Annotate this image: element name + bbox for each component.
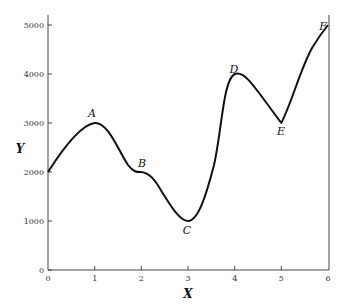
x-tick-label: 3 [185, 274, 190, 283]
x-axis-title: X [182, 287, 193, 301]
point-label-d: D [229, 63, 239, 76]
y-tick-label: 5000 [24, 21, 44, 30]
y-tick-label: 3000 [24, 119, 44, 128]
y-tick-label: 4000 [24, 70, 44, 79]
x-ticks: 0 1 2 3 4 5 6 [45, 266, 330, 283]
point-label-a: A [87, 107, 96, 120]
point-label-c: C [183, 224, 192, 237]
line-chart: 0 1000 2000 3000 4000 5000 0 1 2 3 4 5 6… [0, 0, 343, 307]
x-tick-label: 4 [232, 274, 237, 283]
x-tick-label: 1 [92, 274, 97, 283]
point-label-e: E [276, 125, 285, 138]
x-tick-label: 0 [45, 274, 50, 283]
point-labels: A B C D E F [87, 20, 327, 237]
data-curve [48, 25, 328, 221]
y-tick-label: 1000 [24, 217, 44, 226]
x-tick-label: 5 [279, 274, 284, 283]
point-label-f: F [318, 20, 327, 33]
x-tick-label: 2 [139, 274, 144, 283]
y-tick-label: 0 [39, 266, 44, 275]
x-tick-label: 6 [325, 274, 330, 283]
y-tick-label: 2000 [24, 168, 44, 177]
point-label-b: B [137, 157, 146, 170]
y-axis-title: Y [16, 142, 26, 156]
